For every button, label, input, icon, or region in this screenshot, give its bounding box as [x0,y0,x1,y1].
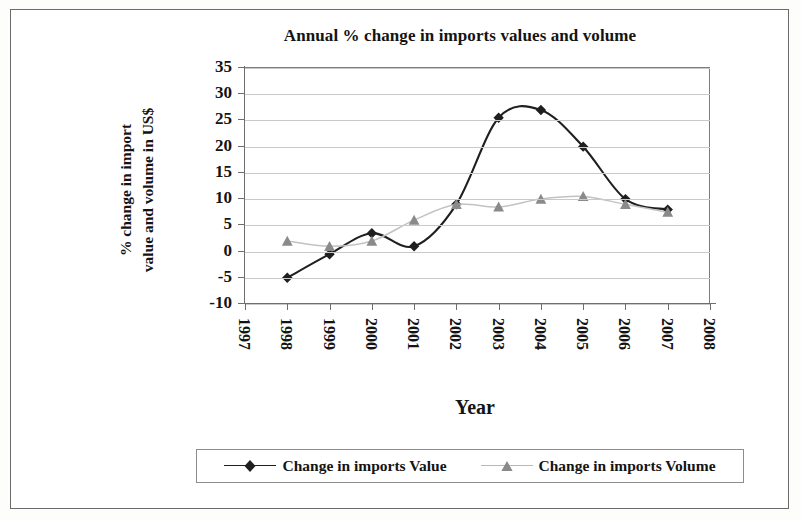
legend-label-volume: Change in imports Volume [539,457,716,475]
series-line [287,196,667,246]
y-axis-tick-label: 30 [176,84,232,101]
chart-legend: Change in imports Value Change in import… [196,449,744,483]
x-axis-tick [456,303,457,310]
y-axis-tick [238,251,245,252]
x-axis-line [238,303,716,304]
diamond-marker-icon [224,459,276,473]
data-point-marker [536,105,546,115]
y-axis-tick-label: 25 [176,110,232,127]
x-axis-tick-label: 2001 [405,318,421,392]
y-axis-tick-label: 5 [176,215,232,232]
x-axis-tick-label: 2005 [574,318,590,392]
x-axis-tick-label: 2003 [490,318,506,392]
legend-entry-value[interactable]: Change in imports Value [224,457,446,475]
x-axis-tick-label: 2006 [616,318,632,392]
chart-title: Annual % change in imports values and vo… [180,26,740,46]
data-point-marker [366,236,377,246]
x-axis-tick [245,303,246,310]
y-axis-tick [238,172,245,173]
gridline [245,94,710,95]
y-axis-tick-label: 20 [176,137,232,154]
x-axis-tick [541,303,542,310]
y-axis-tick [238,224,245,225]
triangle-marker-icon [481,459,533,473]
x-axis-tick-label: 2007 [659,318,675,392]
y-axis-line [244,66,245,304]
x-axis-tick [499,303,500,310]
y-axis-tick [238,146,245,147]
x-axis-tick-label: 2002 [447,318,463,392]
x-axis-tick-label: 1997 [236,318,252,392]
legend-label-value: Change in imports Value [282,457,446,475]
x-axis-tick [330,303,331,310]
gridline [245,147,710,148]
gridline [245,278,710,279]
series-layer [245,68,710,304]
gridline [245,120,710,121]
y-axis-tick-label: 15 [176,163,232,180]
x-axis-tick [287,303,288,310]
x-axis-tick [625,303,626,310]
x-axis-tick-label: 2008 [701,318,717,392]
y-axis-tick [238,119,245,120]
y-axis-tick [238,93,245,94]
x-axis-tick-label: 2000 [363,318,379,392]
gridline [245,225,710,226]
data-point-marker [282,236,293,246]
y-axis-tick-label: -10 [176,294,232,311]
x-axis-tick [414,303,415,310]
y-axis-tick [238,303,245,304]
data-point-marker [409,241,419,251]
x-axis-tick [710,303,711,310]
x-axis-tick-label: 2004 [532,318,548,392]
y-axis-tick [238,198,245,199]
gridline [245,199,710,200]
y-axis-tick-label: 35 [176,58,232,75]
legend-entry-volume[interactable]: Change in imports Volume [481,457,716,475]
y-axis-tick [238,67,245,68]
x-axis-title: Year [345,396,605,419]
data-point-marker [409,215,420,225]
gridline [245,68,710,69]
gridline [245,173,710,174]
x-axis-tick [583,303,584,310]
y-axis-tick-label: 10 [176,189,232,206]
y-axis-tick-label: 0 [176,242,232,259]
chart-page: Annual % change in imports values and vo… [0,0,801,520]
y-axis-tick-label: -5 [176,268,232,285]
x-axis-tick-label: 1999 [321,318,337,392]
x-axis-tick [668,303,669,310]
y-axis-tick [238,277,245,278]
gridline [245,252,710,253]
gridline [245,304,710,305]
x-axis-tick-label: 1998 [278,318,294,392]
x-axis-tick [372,303,373,310]
plot-area [245,67,710,303]
